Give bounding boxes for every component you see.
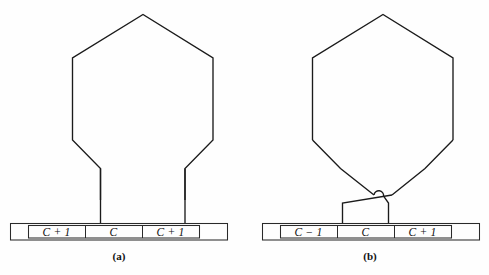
panel-b-graphic — [263, 15, 480, 241]
hexagon-lower-right-slant-b — [392, 140, 453, 195]
tape-cell-label-b-1: C — [337, 227, 394, 239]
tape-cell-label-a-0: C + 1 — [28, 227, 85, 239]
hexagon-outline-b — [313, 15, 454, 141]
hexagon-lower-left-slant-b — [313, 140, 375, 195]
panel-caption-a: (a) — [94, 250, 144, 262]
figure-root: C + 1 C C + 1 C − 1 C C + 1 (a) (b) — [0, 0, 489, 275]
panel-a-graphic — [11, 15, 228, 241]
crossed-strand-to-right-leg-b — [384, 196, 389, 223]
wire-crossing-hop-arc-b — [374, 191, 384, 196]
tape-cell-label-a-2: C + 1 — [142, 227, 199, 239]
crossed-strand-to-left-leg-b — [343, 195, 393, 224]
panel-caption-b: (b) — [345, 250, 395, 262]
hexagon-outline-a — [73, 15, 214, 201]
tape-cell-label-b-0: C − 1 — [280, 227, 337, 239]
tape-cell-label-a-1: C — [85, 227, 142, 239]
tape-cell-label-b-2: C + 1 — [394, 227, 451, 239]
